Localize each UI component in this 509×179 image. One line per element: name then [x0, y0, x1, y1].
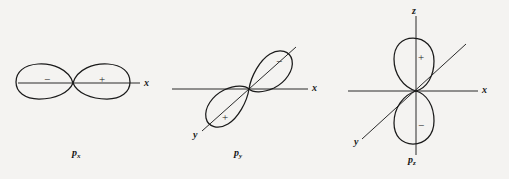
sign-label-positive: + [222, 112, 228, 123]
axis-label-x: x [144, 78, 149, 88]
orbital-panel-py: − + x y py [160, 0, 340, 179]
caption-subscript: z [413, 159, 416, 167]
axis-label-z: z [412, 6, 416, 16]
orbital-caption-px: px [72, 148, 81, 158]
axis-label-y: y [193, 130, 197, 140]
orbital-panel-pz: + − z x y pz [330, 0, 509, 179]
lobe-negative-y [249, 51, 292, 92]
lobe-positive-z [394, 38, 434, 91]
axis-label-y: y [354, 137, 358, 147]
caption-subscript: x [77, 152, 81, 160]
sign-label-positive: + [99, 74, 105, 85]
orbital-panel-px: − + x px [0, 0, 170, 179]
caption-subscript: y [239, 152, 242, 160]
sign-label-negative: − [418, 120, 424, 131]
px-diagram [0, 0, 170, 179]
sign-label-negative: − [276, 56, 282, 67]
sign-label-negative: − [44, 74, 50, 85]
orbital-caption-py: py [234, 148, 242, 158]
sign-label-positive: + [418, 52, 424, 63]
axis-label-x: x [482, 85, 487, 95]
axis-label-x: x [312, 83, 317, 93]
lobe-negative-z [394, 91, 434, 144]
orbital-caption-pz: pz [408, 155, 416, 165]
p-orbitals-figure: − + x px − + x y py [0, 0, 509, 179]
